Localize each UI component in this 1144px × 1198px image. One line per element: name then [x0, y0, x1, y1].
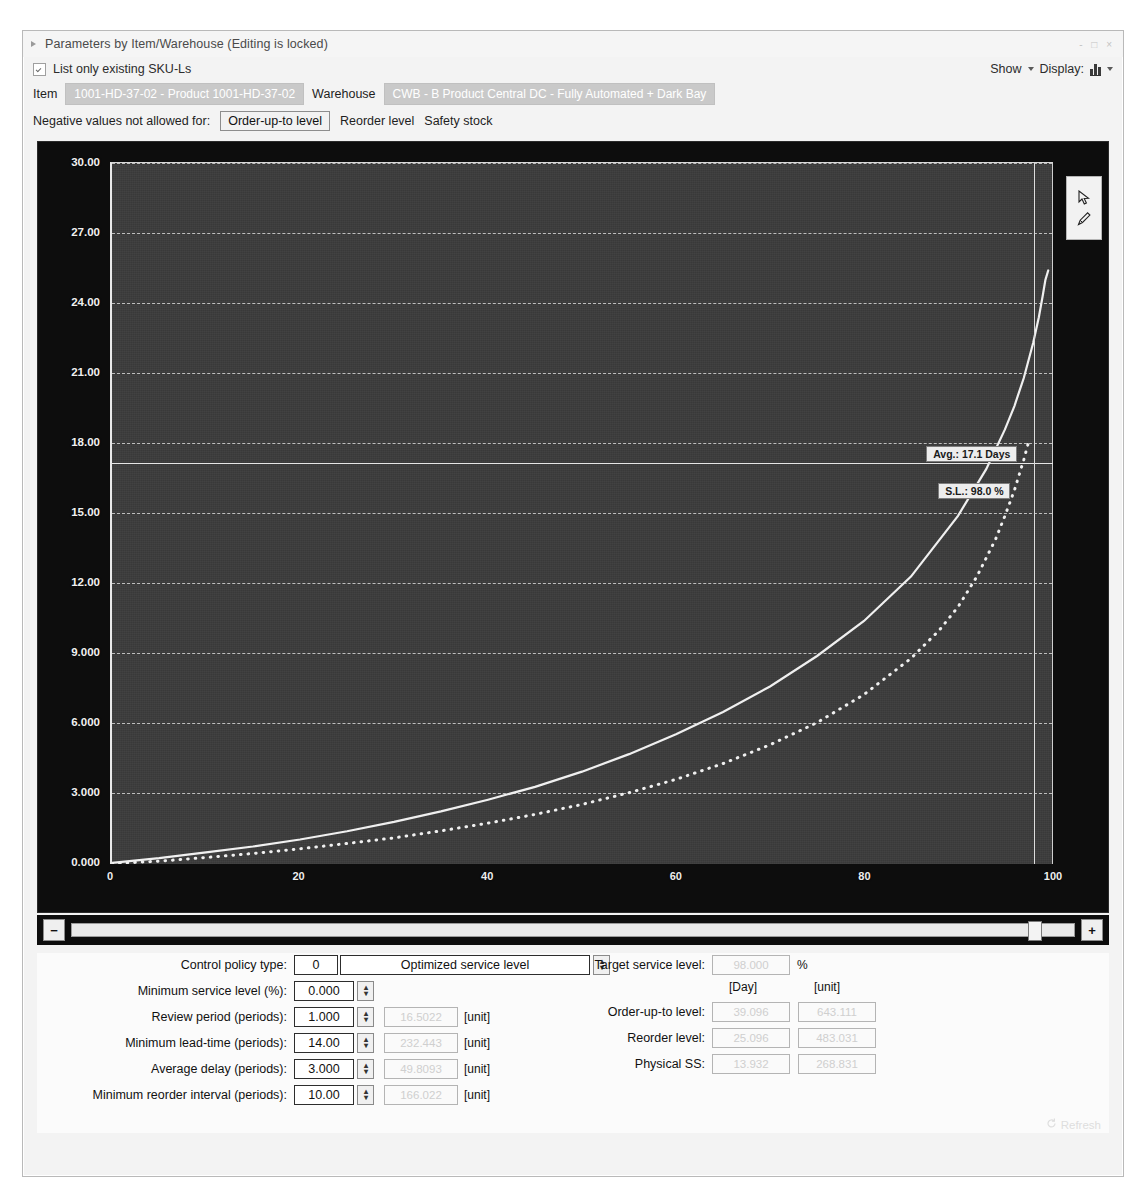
chart-y-tick-label: 21.00 — [71, 366, 100, 378]
refresh-label: Refresh — [1061, 1119, 1101, 1131]
chart-tool-palette[interactable] — [1066, 176, 1102, 240]
result-unit-value: 643.111 — [798, 1002, 876, 1022]
parameter-value-input[interactable]: 1.000 — [294, 1007, 354, 1027]
column-header-day: [Day] — [705, 980, 781, 998]
item-label: Item — [33, 87, 57, 101]
negative-option-safety-stock[interactable]: Safety stock — [424, 114, 492, 128]
list-only-existing-skuls-checkbox[interactable] — [33, 63, 46, 76]
parameter-unit: [unit] — [464, 1036, 490, 1050]
cursor-pointer-icon[interactable] — [1078, 190, 1091, 205]
parameter-derived-value: 16.5022 — [384, 1007, 458, 1027]
negative-values-label: Negative values not allowed for: — [33, 114, 210, 128]
chart-y-tick-label: 12.00 — [71, 576, 100, 588]
column-header-unit: [unit] — [789, 980, 865, 998]
triangle-right-icon[interactable] — [31, 41, 36, 47]
parameter-unit: [unit] — [464, 1088, 490, 1102]
zoom-slider-thumb[interactable] — [1028, 921, 1042, 941]
result-unit-value: 268.831 — [798, 1054, 876, 1074]
parameter-label: Minimum reorder interval (periods): — [37, 1088, 294, 1102]
parameter-unit: [unit] — [464, 1062, 490, 1076]
item-warehouse-row: Item 1001-HD-37-02 - Product 1001-HD-37-… — [23, 81, 1123, 107]
pencil-icon[interactable] — [1077, 211, 1092, 226]
chevron-down-icon[interactable] — [1107, 67, 1113, 71]
zoom-in-button[interactable]: + — [1081, 919, 1103, 941]
header-right-controls: Show Display: — [990, 62, 1113, 76]
chart-gridline — [112, 583, 1052, 584]
parameter-row: Minimum reorder interval (periods):10.00… — [37, 1083, 610, 1106]
chart-y-tick-label: 9.000 — [71, 646, 100, 658]
chart-y-tick-label: 18.00 — [71, 436, 100, 448]
parameter-stepper[interactable]: ▴▾ — [357, 1033, 374, 1053]
service-level-label: S.L.: 98.0 % — [938, 483, 1010, 499]
window-titlebar: Parameters by Item/Warehouse (Editing is… — [23, 31, 1123, 57]
options-row: List only existing SKU-Ls Show Display: — [23, 57, 1123, 81]
parameter-stepper[interactable]: ▴▾ — [357, 1085, 374, 1105]
parameter-row: Average delay (periods):3.000▴▾49.8093[u… — [37, 1057, 610, 1080]
warehouse-value-field[interactable]: CWB - B Product Central DC - Fully Autom… — [384, 83, 716, 105]
chart-y-tick-label: 15.00 — [71, 506, 100, 518]
parameter-value-input[interactable]: 10.00 — [294, 1085, 354, 1105]
parameter-label: Minimum lead-time (periods): — [37, 1036, 294, 1050]
display-label: Display: — [1040, 62, 1084, 76]
chart-gridline — [112, 233, 1052, 234]
parameter-value-input[interactable]: 14.00 — [294, 1033, 354, 1053]
result-row: Reorder level:25.096483.031 — [557, 1026, 876, 1049]
chart-zoom-slider-row[interactable]: − + — [37, 915, 1109, 945]
chart-plot-area[interactable] — [110, 162, 1053, 864]
chart-gridline — [112, 443, 1052, 444]
chart-gridline — [112, 303, 1052, 304]
parameter-label: Minimum service level (%): — [37, 984, 294, 998]
result-label: Order-up-to level: — [557, 1005, 712, 1019]
negative-option-reorder-level[interactable]: Reorder level — [340, 114, 414, 128]
avg-line-label: Avg.: 17.1 Days — [926, 446, 1017, 462]
result-row: Order-up-to level:39.096643.111 — [557, 1000, 876, 1023]
negative-option-order-up-to-level[interactable]: Order-up-to level — [220, 111, 330, 131]
target-service-level-value: 98.000 — [712, 955, 790, 975]
left-parameters-group: Control policy type: 0 Optimized service… — [37, 953, 610, 1109]
avg-horizontal-line — [110, 463, 1053, 464]
window-controls[interactable]: - □ × — [1079, 39, 1115, 50]
chart-y-tick-label: 6.000 — [71, 716, 100, 728]
chart-x-tick-label: 40 — [481, 870, 493, 882]
result-label: Physical SS: — [557, 1057, 712, 1071]
chart-gridline — [112, 793, 1052, 794]
parameters-window: Parameters by Item/Warehouse (Editing is… — [22, 30, 1124, 1177]
result-day-value: 13.932 — [712, 1054, 790, 1074]
chart-x-tick-label: 80 — [858, 870, 870, 882]
parameter-stepper[interactable]: ▴▾ — [357, 981, 374, 1001]
list-only-existing-skuls-label: List only existing SKU-Ls — [53, 62, 191, 76]
negative-values-row: Negative values not allowed for: Order-u… — [23, 107, 1123, 135]
result-row: Physical SS:13.932268.831 — [557, 1052, 876, 1075]
right-column-headers: [Day] [unit] — [557, 980, 876, 998]
parameter-value-input[interactable]: 0.000 — [294, 981, 354, 1001]
parameter-stepper[interactable]: ▴▾ — [357, 1007, 374, 1027]
chart-gridline — [112, 653, 1052, 654]
parameter-stepper[interactable]: ▴▾ — [357, 1059, 374, 1079]
parameters-form: Control policy type: 0 Optimized service… — [37, 953, 1109, 1133]
parameter-value-input[interactable]: 3.000 — [294, 1059, 354, 1079]
control-policy-code-field[interactable]: 0 — [294, 955, 338, 975]
right-parameters-group: Target service level: 98.000 % [Day] [un… — [557, 953, 876, 1078]
chart-y-tick-label: 27.00 — [71, 226, 100, 238]
bar-chart-icon[interactable] — [1090, 63, 1101, 76]
chart-series-solid-curve — [112, 270, 1048, 862]
chart-y-tick-label: 0.000 — [71, 856, 100, 868]
chart-x-tick-label: 60 — [670, 870, 682, 882]
control-policy-name-field[interactable]: Optimized service level — [340, 955, 590, 975]
parameter-derived-value: 49.8093 — [384, 1059, 458, 1079]
zoom-slider-track[interactable] — [71, 923, 1075, 937]
show-menu[interactable]: Show — [990, 62, 1021, 76]
window-title: Parameters by Item/Warehouse (Editing is… — [45, 37, 328, 51]
zoom-out-button[interactable]: − — [43, 919, 65, 941]
chart-series-dotted-curve — [112, 439, 1029, 864]
item-value-field[interactable]: 1001-HD-37-02 - Product 1001-HD-37-02 — [65, 83, 304, 105]
target-service-level-label: Target service level: — [557, 958, 712, 972]
chart-y-tick-label: 3.000 — [71, 786, 100, 798]
refresh-button[interactable]: Refresh — [1046, 1118, 1101, 1131]
chevron-down-icon[interactable] — [1028, 67, 1034, 71]
chart-y-tick-label: 24.00 — [71, 296, 100, 308]
parameter-label: Average delay (periods): — [37, 1062, 294, 1076]
parameter-row: Minimum lead-time (periods):14.00▴▾232.4… — [37, 1031, 610, 1054]
parameter-derived-value: 232.443 — [384, 1033, 458, 1053]
chart-x-tick-label: 0 — [107, 870, 113, 882]
